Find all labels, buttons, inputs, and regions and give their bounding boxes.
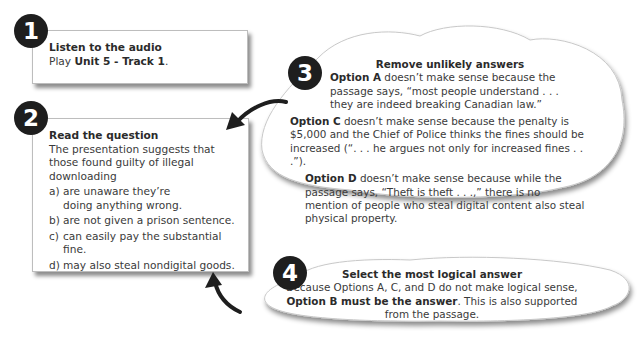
reason-option-d: Option D doesn’t make sense because whil… bbox=[300, 172, 585, 225]
step-4-badge: 4 bbox=[273, 256, 307, 290]
reason-label: Option D bbox=[305, 172, 357, 184]
step-3-content: Remove unlikely answers Option A doesn’t… bbox=[300, 58, 600, 226]
step-4-content: Select the most logical answer Because O… bbox=[282, 268, 582, 321]
arrow-head-4-to-2 bbox=[205, 272, 222, 288]
step-4-prefix: Because Options A, C, and D do not make … bbox=[286, 281, 577, 293]
step-3-badge: 3 bbox=[288, 56, 322, 90]
step-4-title: Select the most logical answer bbox=[282, 268, 582, 281]
reason-option-c: Option C doesn’t make sense because the … bbox=[290, 115, 590, 168]
answer-highlight: Option B must be the answer bbox=[287, 295, 458, 307]
reason-option-a: Option A doesn’t make sense because the … bbox=[300, 71, 560, 111]
arrow-4-to-2 bbox=[215, 282, 240, 312]
step-4-text: Because Options A, C, and D do not make … bbox=[282, 281, 582, 321]
step-3-title: Remove unlikely answers bbox=[300, 58, 600, 71]
step-2-badge: 2 bbox=[14, 101, 48, 135]
reason-label: Option A bbox=[330, 71, 381, 83]
reason-label: Option C bbox=[290, 115, 341, 127]
step-1-badge: 1 bbox=[14, 14, 48, 48]
